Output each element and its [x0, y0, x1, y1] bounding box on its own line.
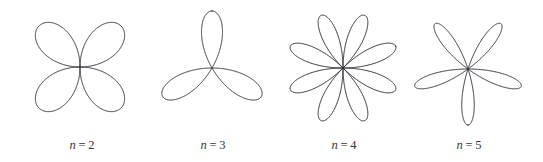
panel-label-equals: =	[207, 138, 219, 152]
panel-label-n4: n=4	[284, 138, 404, 152]
panel-label-value: 5	[475, 138, 481, 152]
panel-label-variable: n	[200, 138, 206, 152]
panel-label-value: 4	[350, 138, 356, 152]
panel-label-value: 3	[219, 138, 225, 152]
panel-label-n3: n=3	[153, 138, 273, 152]
rose-curve-panel-n4	[290, 15, 396, 121]
panel-label-n5: n=5	[409, 138, 529, 152]
panel-label-equals: =	[338, 138, 350, 152]
rose-curves-figure: n=2 n=3 n=4 n=5	[0, 0, 543, 162]
panel-label-n2: n=2	[22, 138, 142, 152]
rose-curve-panel-n3	[162, 11, 262, 100]
panel-label-variable: n	[331, 138, 337, 152]
panel-label-value: 2	[88, 138, 94, 152]
panel-label-variable: n	[456, 138, 462, 152]
rose-curve-panel-n5	[415, 23, 522, 125]
rose-curve-panel-n2	[35, 22, 124, 111]
panel-label-equals: =	[76, 138, 88, 152]
panel-label-variable: n	[69, 138, 75, 152]
panel-label-equals: =	[463, 138, 475, 152]
